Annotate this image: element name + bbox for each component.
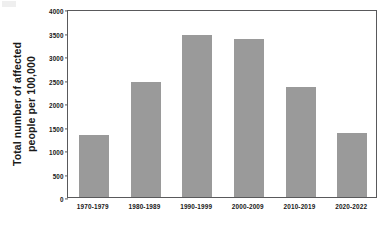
- bar-1980-1989: [131, 82, 161, 197]
- plot-area: 05001000150020002500300035004000: [67, 10, 377, 198]
- x-tick-label: 1970-1979: [77, 203, 109, 210]
- bar-1990-1999: [182, 35, 212, 197]
- x-tick-label: 2010-2019: [284, 203, 316, 210]
- x-tick-label: 1990-1999: [180, 203, 212, 210]
- y-tick-mark: [65, 198, 69, 199]
- scan-artifact: [2, 1, 16, 7]
- x-tick-label: 1980-1989: [129, 203, 161, 210]
- x-tick-label: 2020-2022: [335, 203, 367, 210]
- bar-2000-2009: [234, 39, 264, 197]
- bars-layer: [68, 11, 376, 197]
- bar-2020-2022: [337, 133, 367, 197]
- bar-1970-1979: [79, 135, 109, 197]
- x-tick-label: 2000-2009: [232, 203, 264, 210]
- bar-chart-figure: Total number of affected people per 100,…: [0, 0, 389, 225]
- y-axis-title: Total number of affected people per 100,…: [6, 16, 44, 192]
- y-axis-title-line-2: people per 100,000: [25, 56, 39, 152]
- y-axis-title-line-1: Total number of affected: [11, 42, 25, 166]
- bar-2010-2019: [286, 87, 316, 197]
